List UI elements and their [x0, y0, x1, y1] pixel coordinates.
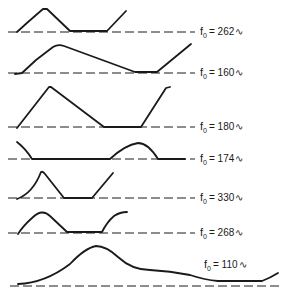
cycles-wave-icon: ∿	[235, 26, 243, 37]
waveform-6	[18, 212, 127, 234]
waveform-1	[17, 9, 126, 32]
subscript-zero: 0	[203, 233, 207, 240]
frequency-value: = 160	[209, 67, 234, 78]
subscript-zero: 0	[203, 198, 207, 205]
waveform-2	[15, 44, 191, 74]
frequency-label-6: f0= 268∿	[200, 227, 243, 238]
waveform-4	[17, 142, 185, 159]
cycles-wave-icon: ∿	[239, 259, 247, 270]
waveform-3	[17, 87, 170, 128]
frequency-value: = 330	[209, 192, 234, 203]
frequency-label-2: f0= 160∿	[200, 67, 243, 78]
subscript-zero: 0	[207, 265, 211, 272]
frequency-value: = 110	[213, 259, 238, 270]
cycles-wave-icon: ∿	[235, 192, 243, 203]
cycles-wave-icon: ∿	[235, 227, 243, 238]
frequency-value: = 180	[209, 121, 234, 132]
cycles-wave-icon: ∿	[235, 67, 243, 78]
frequency-label-3: f0= 180∿	[200, 121, 243, 132]
waveform-diagram	[0, 0, 292, 298]
subscript-zero: 0	[203, 73, 207, 80]
waveform-5	[17, 172, 113, 199]
frequency-value: = 268	[209, 227, 234, 238]
cycles-wave-icon: ∿	[235, 121, 243, 132]
frequency-label-5: f0= 330∿	[200, 192, 243, 203]
subscript-zero: 0	[203, 127, 207, 134]
frequency-label-1: f0= 262∿	[200, 26, 243, 37]
subscript-zero: 0	[203, 159, 207, 166]
frequency-label-4: f0= 174∿	[200, 153, 243, 164]
frequency-label-7: f0= 110∿	[204, 259, 247, 270]
cycles-wave-icon: ∿	[235, 153, 243, 164]
subscript-zero: 0	[203, 32, 207, 39]
waveform-curves	[15, 9, 278, 284]
frequency-value: = 174	[209, 153, 234, 164]
frequency-value: = 262	[209, 26, 234, 37]
